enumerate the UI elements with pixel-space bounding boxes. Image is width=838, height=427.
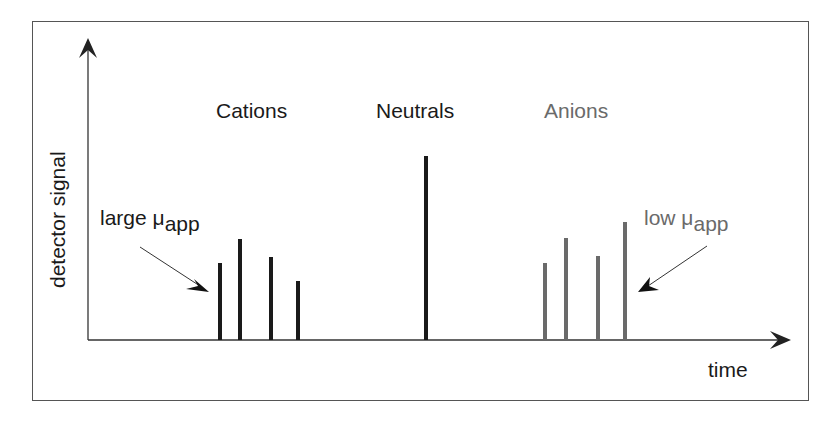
peak-cations: [269, 257, 273, 340]
anions-label: Anions: [544, 99, 608, 123]
x-axis-label: time: [708, 358, 748, 382]
low-mu-arrowhead-icon: [638, 277, 659, 292]
app-subscript: app: [693, 212, 728, 235]
peak-anions: [564, 238, 568, 340]
y-axis-label: detector signal: [46, 151, 70, 288]
mu-symbol: μ: [153, 206, 165, 229]
peak-anions: [596, 256, 600, 340]
peak-cations: [296, 281, 300, 340]
large-mu-prefix: large: [100, 206, 153, 229]
neutrals-label: Neutrals: [376, 99, 454, 123]
mu-symbol: μ: [681, 206, 693, 229]
peak-anions: [623, 222, 627, 340]
peak-cations: [218, 263, 222, 340]
low-mu-annotation: low μapp: [644, 206, 729, 236]
peak-cations: [238, 239, 242, 340]
app-subscript: app: [165, 212, 200, 235]
large-mu-annotation: large μapp: [100, 206, 200, 236]
peaks: [218, 156, 627, 340]
large-mu-arrow: [140, 247, 203, 288]
low-mu-arrow: [645, 246, 707, 288]
cations-label: Cations: [216, 99, 287, 123]
low-mu-prefix: low: [644, 206, 681, 229]
peak-neutrals: [424, 156, 428, 340]
large-mu-arrowhead-icon: [186, 279, 209, 292]
peak-anions: [543, 263, 547, 340]
